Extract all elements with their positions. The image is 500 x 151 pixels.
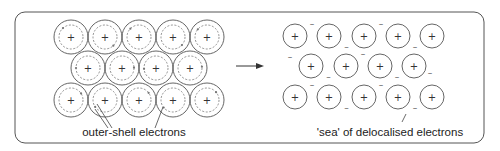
metal-atom: + (54, 20, 88, 54)
ion-plus-icon: + (394, 92, 402, 103)
electron-dot-icon (62, 27, 64, 29)
ion-plus-icon: + (307, 61, 315, 72)
ion-plus-icon: + (376, 61, 384, 72)
nucleus-plus-icon: + (67, 32, 75, 43)
electron-dot-icon (147, 92, 149, 94)
positive-ion: + (283, 24, 307, 48)
electron-minus-icon: – (310, 80, 315, 90)
electron-minus-icon: – (428, 68, 433, 78)
positive-ion: + (386, 24, 410, 48)
electron-minus-icon: – (395, 72, 400, 82)
nucleus-plus-icon: + (169, 32, 177, 43)
electron-dot-icon (181, 44, 183, 46)
metal-atom: + (122, 83, 156, 117)
metal-atom: + (156, 20, 190, 54)
electron-dot-icon (133, 66, 135, 68)
electron-dot-icon (201, 66, 203, 68)
ion-plus-icon: + (428, 31, 436, 42)
nucleus-plus-icon: + (135, 95, 143, 106)
nucleus-plus-icon: + (203, 95, 211, 106)
electron-dot-icon (94, 106, 96, 108)
ion-plus-icon: + (410, 61, 418, 72)
left-panel-atoms: ++++++++++++++ (54, 20, 224, 117)
electron-minus-icon: – (344, 42, 349, 52)
electron-dot-icon (143, 68, 145, 70)
nucleus-plus-icon: + (67, 95, 75, 106)
label-pointer-line (402, 114, 406, 122)
metal-atom: + (173, 51, 207, 85)
positive-ion: + (283, 85, 307, 109)
transition-arrow (236, 63, 264, 69)
nucleus-plus-icon: + (152, 63, 160, 74)
nucleus-plus-icon: + (101, 32, 109, 43)
ion-plus-icon: + (394, 31, 402, 42)
ion-plus-icon: + (291, 92, 299, 103)
nucleus-plus-icon: + (169, 95, 177, 106)
left-panel-label: outer-shell electrons (82, 126, 186, 138)
ion-plus-icon: + (360, 31, 368, 42)
positive-ion: + (299, 54, 323, 78)
metal-atom: + (88, 83, 122, 117)
electron-dot-icon (112, 45, 114, 47)
ion-plus-icon: + (360, 92, 368, 103)
metal-atom: + (122, 20, 156, 54)
positive-ion: + (368, 54, 392, 78)
metal-atom: + (190, 83, 224, 117)
ion-plus-icon: + (342, 61, 350, 72)
nucleus-plus-icon: + (135, 32, 143, 43)
electron-minus-icon: – (379, 80, 384, 90)
ion-plus-icon: + (291, 31, 299, 42)
ion-plus-icon: + (325, 92, 333, 103)
electron-minus-icon: – (288, 52, 293, 62)
positive-ion: + (352, 85, 376, 109)
positive-ion: + (317, 85, 341, 109)
positive-ion: + (317, 24, 341, 48)
electron-minus-icon: – (344, 103, 349, 113)
arrow-head-icon (256, 63, 264, 69)
electron-minus-icon: – (361, 49, 366, 59)
electron-minus-icon: – (326, 72, 331, 82)
electron-dot-icon (129, 28, 131, 30)
right-panel-ions: ++++++++++++++ (283, 24, 444, 109)
electron-dot-icon (75, 67, 77, 69)
ion-plus-icon: + (325, 31, 333, 42)
metal-atom: + (190, 20, 224, 54)
ion-plus-icon: + (428, 92, 436, 103)
nucleus-plus-icon: + (84, 63, 92, 74)
metallic-bonding-diagram: ++++++++++++++ outer-shell electrons +++… (0, 0, 500, 151)
nucleus-plus-icon: + (186, 63, 194, 74)
diagram-frame (15, 12, 484, 143)
electron-minus-icon: – (413, 103, 418, 113)
positive-ion: + (420, 85, 444, 109)
positive-ion: + (420, 24, 444, 48)
electron-minus-icon: – (310, 19, 315, 29)
nucleus-plus-icon: + (203, 32, 211, 43)
electron-minus-icon: – (413, 42, 418, 52)
electron-dot-icon (197, 28, 199, 30)
electron-dot-icon (215, 91, 217, 93)
positive-ion: + (386, 85, 410, 109)
electron-dot-icon (80, 92, 82, 94)
positive-ion: + (334, 54, 358, 78)
metal-atom: + (54, 83, 88, 117)
metal-atom: + (88, 20, 122, 54)
nucleus-plus-icon: + (118, 63, 126, 74)
positive-ion: + (402, 54, 426, 78)
positive-ion: + (352, 24, 376, 48)
electron-minus-icon: – (379, 19, 384, 29)
nucleus-plus-icon: + (101, 95, 109, 106)
right-panel-label: 'sea' of delocalised electrons (317, 126, 464, 138)
